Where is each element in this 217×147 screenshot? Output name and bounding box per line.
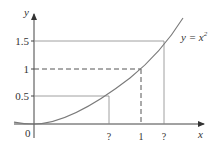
origin-label: 0	[25, 127, 31, 139]
parabola-figure: y x 0 0.5 1 1.5 ? 1 ? y = x2	[0, 0, 217, 147]
x-tick-1: 1	[139, 131, 144, 142]
x-tick-unknown-2: ?	[162, 131, 167, 142]
y-tick-1: 1	[24, 63, 30, 75]
y-tick-1.5: 1.5	[15, 35, 29, 47]
y-axis-label: y	[23, 6, 29, 18]
x-tick-unknown-1: ?	[107, 131, 112, 142]
parabola-curve	[14, 18, 183, 124]
curve-label: y = x2	[180, 30, 208, 43]
y-tick-0.5: 0.5	[15, 90, 29, 102]
x-axis-label: x	[197, 128, 203, 140]
